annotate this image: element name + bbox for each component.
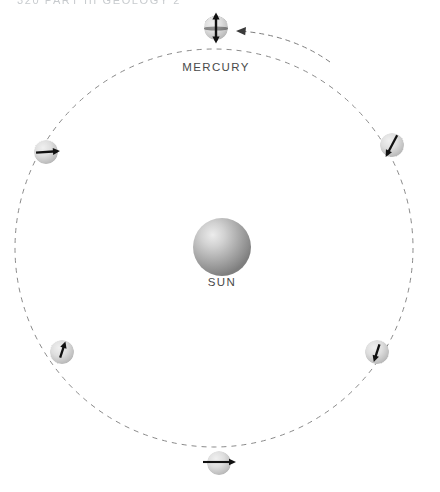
mercury-label: MERCURY (182, 61, 249, 73)
mercury-disc-upper-right (380, 133, 409, 162)
orbital-direction-arrow (236, 27, 330, 62)
sun-body (193, 218, 251, 276)
mercury-axis-arrowhead-down-top (212, 37, 219, 44)
orbital-direction-arrow-tail (240, 31, 330, 62)
orbital-direction-arrowhead (236, 27, 246, 35)
mercury-position-lower-right (365, 337, 393, 364)
mercury-disc-bottom (207, 451, 232, 477)
diagram-canvas (0, 0, 440, 492)
mercury-position-bottom (203, 451, 236, 477)
mercury-axis-arrowhead-bottom (229, 459, 236, 466)
mercury-position-lower-left (46, 340, 74, 367)
mercury-disc-lower-left (46, 340, 74, 367)
mercury-orbit-figure: 320 PART III GEOLOGY 2 (0, 0, 440, 492)
mercury-disc-lower-right (365, 337, 393, 364)
sun-label: SUN (208, 276, 236, 288)
mercury-position-upper-left (29, 135, 60, 164)
sun-sphere (193, 218, 251, 276)
mercury-position-upper-right (380, 133, 409, 162)
mercury-axis-arrowhead-up-top (212, 13, 219, 20)
mercury-position-top (203, 13, 228, 44)
